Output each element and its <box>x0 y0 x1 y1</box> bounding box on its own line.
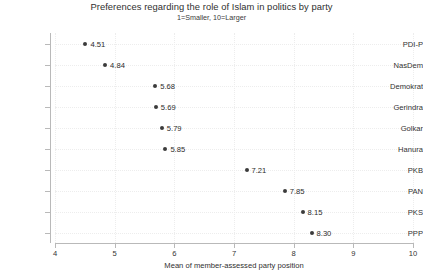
y-axis-tick <box>45 44 50 45</box>
y-axis-tick <box>45 107 50 108</box>
y-axis-line <box>50 33 51 243</box>
x-axis-tick <box>55 243 56 248</box>
gridline-horizontal <box>55 44 413 45</box>
y-axis-tick <box>45 212 50 213</box>
data-point-label: 7.85 <box>290 186 305 195</box>
gridline-horizontal <box>55 107 413 108</box>
y-axis-label-pdi-p: PDI-P <box>379 39 423 48</box>
x-axis-tick <box>353 243 354 248</box>
y-axis-label-golkar: Golkar <box>379 123 423 132</box>
y-axis-tick <box>45 128 50 129</box>
y-axis-tick <box>45 149 50 150</box>
data-point-label: 5.85 <box>170 144 185 153</box>
x-axis-tick <box>174 243 175 248</box>
gridline-horizontal <box>55 65 413 66</box>
data-point-marker[interactable] <box>153 84 157 88</box>
x-axis-tick <box>294 243 295 248</box>
gridline-horizontal <box>55 149 413 150</box>
y-axis-label-pks: PKS <box>379 207 423 216</box>
y-axis-tick <box>45 86 50 87</box>
x-axis-tick <box>413 243 414 248</box>
chart-title: Preferences regarding the role of Islam … <box>0 1 423 12</box>
gridline-horizontal <box>55 170 413 171</box>
y-axis-tick <box>45 170 50 171</box>
x-axis-tick-label: 4 <box>53 249 57 258</box>
y-axis-label-nasdem: NasDem <box>379 60 423 69</box>
data-point-marker[interactable] <box>283 189 287 193</box>
data-point-marker[interactable] <box>160 126 164 130</box>
data-point-marker[interactable] <box>310 231 314 235</box>
y-axis-label-pan: PAN <box>379 186 423 195</box>
data-point-marker[interactable] <box>163 147 167 151</box>
x-axis-tick-label: 5 <box>113 249 117 258</box>
data-point-label: 4.84 <box>110 60 125 69</box>
data-point-label: 5.69 <box>161 102 176 111</box>
gridline-horizontal <box>55 212 413 213</box>
gridline-horizontal <box>55 86 413 87</box>
y-axis-tick <box>45 65 50 66</box>
data-point-marker[interactable] <box>245 168 249 172</box>
y-axis-label-hanura: Hanura <box>379 144 423 153</box>
data-point-marker[interactable] <box>301 210 305 214</box>
data-point-label: 8.30 <box>317 228 332 237</box>
y-axis-label-gerindra: Gerindra <box>379 102 423 111</box>
y-axis-tick <box>45 191 50 192</box>
data-point-label: 7.21 <box>252 165 267 174</box>
data-point-label: 4.51 <box>90 39 105 48</box>
data-point-label: 5.68 <box>160 81 175 90</box>
x-axis-tick-label: 7 <box>232 249 236 258</box>
x-axis-tick-label: 6 <box>172 249 176 258</box>
x-axis-tick-label: 8 <box>292 249 296 258</box>
y-axis-label-ppp: PPP <box>379 228 423 237</box>
data-point-label: 5.79 <box>167 123 182 132</box>
x-axis-tick <box>115 243 116 248</box>
x-axis-tick-label: 10 <box>409 249 417 258</box>
data-point-label: 8.15 <box>308 207 323 216</box>
y-axis-tick <box>45 233 50 234</box>
chart-container: Preferences regarding the role of Islam … <box>0 0 423 276</box>
chart-subtitle: 1=Smaller, 10=Larger <box>0 13 423 22</box>
data-point-marker[interactable] <box>83 42 87 46</box>
y-axis-label-demokrat: Demokrat <box>379 81 423 90</box>
x-axis-tick-label: 9 <box>351 249 355 258</box>
y-axis-label-pkb: PKB <box>379 165 423 174</box>
x-axis-tick <box>234 243 235 248</box>
data-point-marker[interactable] <box>103 63 107 67</box>
gridline-horizontal <box>55 233 413 234</box>
data-point-marker[interactable] <box>154 105 158 109</box>
plot-area: 4.514.845.685.695.795.857.217.858.158.30 <box>55 33 413 243</box>
gridline-horizontal <box>55 128 413 129</box>
gridline-horizontal <box>55 191 413 192</box>
x-axis-title: Mean of member-assessed party position <box>55 261 413 270</box>
